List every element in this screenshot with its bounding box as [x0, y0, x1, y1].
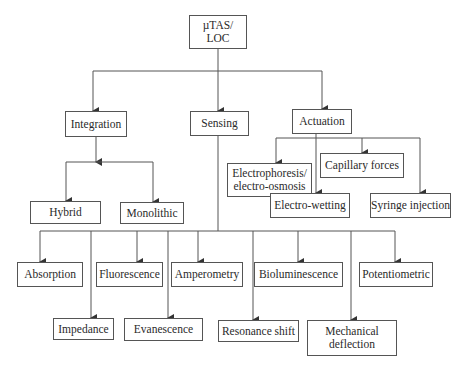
- node-bioluminescence: Bioluminescence: [254, 262, 343, 287]
- node-electro-wetting: Electro-wetting: [270, 193, 350, 218]
- node-absorption: Absorption: [17, 262, 83, 287]
- node-mechanical-deflection: Mechanical deflection: [307, 320, 397, 356]
- node-potentiometric: Potentiometric: [359, 262, 433, 287]
- node-actuation: Actuation: [292, 109, 352, 134]
- node-electrophoresis: Electrophoresis/ electro-osmosis: [227, 163, 312, 197]
- node-impedance: Impedance: [53, 318, 114, 340]
- node-integration: Integration: [65, 111, 127, 137]
- node-capillary-forces: Capillary forces: [320, 153, 404, 178]
- node-evanescence: Evanescence: [124, 318, 203, 341]
- node-syringe-injection: Syringe injection: [370, 193, 451, 218]
- node-fluorescence: Fluorescence: [96, 262, 163, 287]
- node-resonance-shift: Resonance shift: [218, 320, 299, 342]
- node-hybrid: Hybrid: [30, 201, 101, 224]
- node-monolithic: Monolithic: [120, 202, 184, 224]
- node-utas-loc: µTAS/ LOC: [189, 15, 247, 49]
- node-sensing: Sensing: [190, 111, 249, 136]
- node-amperometry: Amperometry: [171, 262, 243, 287]
